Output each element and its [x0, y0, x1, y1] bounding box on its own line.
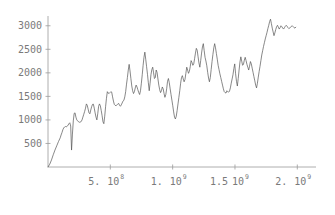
y-tick-label: 2500 — [18, 44, 42, 55]
plot-root: 50010001500200025003000 5.1081.1091.5109… — [0, 0, 335, 215]
x-tick-label: 5.108 — [88, 173, 124, 187]
line-chart: 50010001500200025003000 5.1081.1091.5109… — [0, 0, 335, 215]
y-tick-label: 1000 — [18, 114, 42, 125]
y-tick-label: 2000 — [18, 67, 42, 78]
y-tick-label: 500 — [24, 138, 42, 149]
y-tick-label: 3000 — [18, 20, 42, 31]
x-tick-mantissa: 1.5 — [210, 176, 228, 187]
x-tick-label: 1.109 — [151, 173, 187, 187]
x-tick-base: 10 — [232, 176, 244, 187]
x-tick-exponent: 8 — [120, 173, 124, 181]
x-tick-label-group: 5.1081.1091.51092.109 — [88, 173, 311, 187]
x-tick-mantissa: 2. — [275, 176, 287, 187]
x-tick-base: 10 — [170, 176, 182, 187]
data-series-line — [48, 19, 296, 167]
x-tick-label: 1.5109 — [210, 173, 249, 187]
x-tick-label: 2.109 — [275, 173, 311, 187]
x-tick-mantissa: 1. — [151, 176, 163, 187]
x-tick-base: 10 — [107, 176, 119, 187]
x-tick-mantissa: 5. — [88, 176, 100, 187]
x-tick-base: 10 — [294, 176, 306, 187]
y-tick-label: 1500 — [18, 91, 42, 102]
y-tick-label-group: 50010001500200025003000 — [18, 20, 42, 149]
x-tick-exponent: 9 — [307, 173, 311, 181]
x-tick-exponent: 9 — [183, 173, 187, 181]
x-tick-exponent: 9 — [245, 173, 249, 181]
